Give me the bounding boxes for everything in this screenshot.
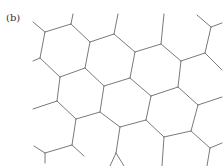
lattice-edge (76, 112, 100, 119)
lattice-edge (85, 68, 104, 86)
lattice-edge (197, 15, 211, 27)
lattice-edge (205, 53, 222, 70)
lattice-edge (72, 145, 84, 156)
lattice-edge (71, 14, 73, 24)
lattice-edge (211, 23, 222, 27)
lattice-edge (161, 44, 181, 61)
lattice-edge (100, 112, 120, 127)
lattice-edge (57, 77, 60, 101)
lattice-edge (114, 14, 118, 34)
lattice-edge (100, 86, 104, 112)
lattice-edge (146, 96, 151, 120)
lattice-edge (164, 131, 191, 137)
lattice-edge (114, 34, 135, 52)
lattice-edge (71, 24, 90, 42)
lattice-edge (104, 78, 130, 86)
lattice-edge (45, 24, 71, 32)
lattice-edge (60, 68, 85, 77)
lattice-edge (85, 42, 90, 68)
lattice-edge (205, 27, 211, 53)
lattice-edge (178, 61, 181, 87)
lattice-edge (198, 97, 222, 105)
lattice-edge (72, 119, 76, 145)
lattice-edge (210, 143, 222, 148)
lattice-edge (40, 32, 45, 58)
lattice-edge (162, 137, 164, 166)
lattice-edge (110, 153, 116, 166)
lattice-edge (34, 146, 45, 153)
lattice-edge (33, 58, 40, 61)
lattice-edge (135, 44, 161, 52)
lattice-edge (116, 127, 120, 153)
lattice-edge (207, 148, 210, 166)
lattice-edge (191, 105, 198, 131)
lattice-edge (116, 153, 124, 166)
lattice-edge (57, 101, 76, 119)
lattice-edge (90, 34, 114, 42)
lattice-edge (120, 120, 146, 127)
lattice-edge (146, 120, 164, 137)
lattice-edge (40, 58, 60, 77)
lattice-edge (191, 131, 210, 148)
lattice-edge (151, 87, 178, 96)
lattice-edge (130, 52, 135, 78)
lattice-edge (161, 14, 164, 44)
lattice-edge (45, 145, 72, 153)
lattice-edge (130, 78, 151, 96)
lattice-edge (33, 22, 45, 32)
lattice-edge (181, 53, 205, 61)
lattice-edge (33, 101, 57, 109)
hexagonal-lattice-diagram (0, 0, 224, 166)
lattice-edge (178, 87, 198, 105)
